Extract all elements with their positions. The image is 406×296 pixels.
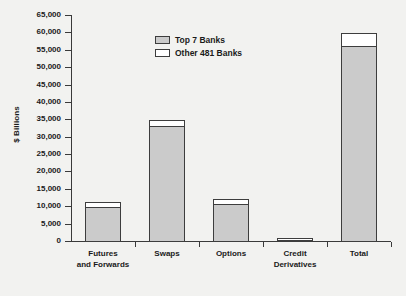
y-axis-tick-label: 5,000 <box>41 219 61 228</box>
legend-item-other-481-banks: Other 481 Banks <box>155 48 242 58</box>
x-axis-tick <box>327 242 328 247</box>
y-axis-tick: 0 <box>65 241 72 242</box>
y-axis-tick-label: 35,000 <box>37 114 61 123</box>
y-axis-tick-label: 15,000 <box>37 184 61 193</box>
y-axis-tick: 10,000 <box>65 206 72 207</box>
bar <box>277 238 313 242</box>
x-axis-tick <box>391 242 392 247</box>
bank-derivatives-stacked-bar-chart: $ Billions 05,00010,00015,00020,00025,00… <box>0 0 406 296</box>
bar-segment-other-481-banks <box>278 239 312 241</box>
bar-segment-top-7-banks <box>342 47 376 241</box>
plot-area: 05,00010,00015,00020,00025,00030,00035,0… <box>71 16 391 242</box>
legend-swatch-icon-top-7-banks <box>155 36 170 44</box>
legend-label-other-481-banks: Other 481 Banks <box>175 48 242 58</box>
y-axis-tick-label: 0 <box>57 236 61 245</box>
y-axis-tick: 50,000 <box>65 67 72 68</box>
bar-segment-other-481-banks <box>342 34 376 46</box>
y-axis-tick-label: 30,000 <box>37 132 61 141</box>
bar-segment-top-7-banks <box>150 127 184 241</box>
x-axis-tick <box>199 242 200 247</box>
y-axis-tick-label: 20,000 <box>37 166 61 175</box>
x-axis-tick <box>263 242 264 247</box>
y-axis-tick: 15,000 <box>65 189 72 190</box>
chart-legend: Top 7 Banks Other 481 Banks <box>155 35 242 58</box>
y-axis-tick: 55,000 <box>65 50 72 51</box>
y-axis-tick-label: 65,000 <box>37 10 61 19</box>
y-axis-tick-label: 45,000 <box>37 80 61 89</box>
bar-segment-top-7-banks <box>86 208 120 241</box>
bar-segment-top-7-banks <box>214 205 248 241</box>
bar <box>213 199 249 242</box>
legend-label-top-7-banks: Top 7 Banks <box>175 35 225 45</box>
y-axis-tick: 30,000 <box>65 137 72 138</box>
y-axis-tick-label: 60,000 <box>37 27 61 36</box>
y-axis-tick-label: 10,000 <box>37 201 61 210</box>
y-axis-tick: 65,000 <box>65 15 72 16</box>
y-axis-tick-label: 50,000 <box>37 62 61 71</box>
y-axis-tick: 60,000 <box>65 32 72 33</box>
y-axis-title: $ Billions <box>12 75 21 175</box>
legend-item-top-7-banks: Top 7 Banks <box>155 35 242 45</box>
y-axis-tick: 5,000 <box>65 224 72 225</box>
y-axis-tick-label: 55,000 <box>37 45 61 54</box>
bar <box>85 202 121 242</box>
legend-swatch-icon-other-481-banks <box>155 49 170 57</box>
y-axis-tick: 20,000 <box>65 171 72 172</box>
y-axis-tick: 45,000 <box>65 85 72 86</box>
bar <box>149 120 185 242</box>
bar <box>341 33 377 242</box>
y-axis-tick: 40,000 <box>65 102 72 103</box>
y-axis-tick: 35,000 <box>65 119 72 120</box>
y-axis-tick-label: 25,000 <box>37 149 61 158</box>
y-axis-tick-label: 40,000 <box>37 97 61 106</box>
x-axis-category-label: Total <box>314 248 404 259</box>
y-axis-tick: 25,000 <box>65 154 72 155</box>
x-axis-tick <box>135 242 136 247</box>
